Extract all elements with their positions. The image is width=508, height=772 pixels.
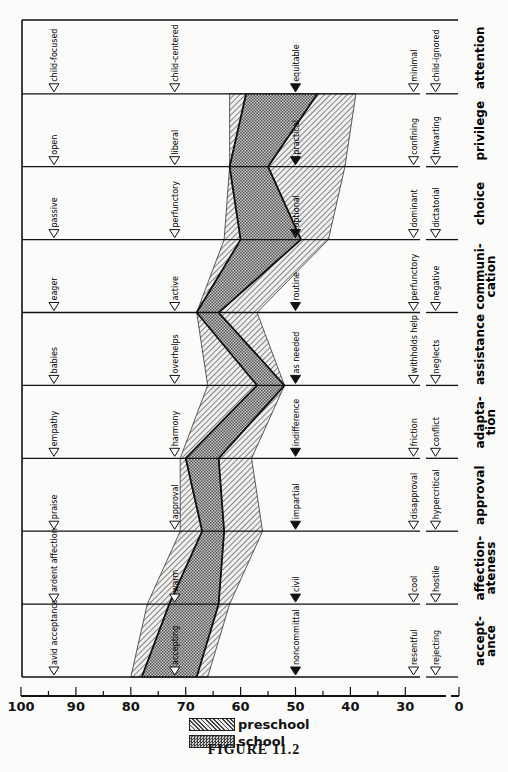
open-triangle-marker-icon — [431, 375, 441, 383]
open-triangle-marker-icon — [49, 667, 59, 675]
anchor-label: resentful — [410, 630, 419, 665]
open-triangle-marker-icon — [409, 303, 419, 311]
open-triangle-marker-icon — [49, 448, 59, 456]
anchor-label: withholds help — [410, 315, 419, 373]
open-triangle-marker-icon — [409, 375, 419, 383]
value-axis — [21, 687, 459, 696]
anchor-label: civil — [292, 576, 301, 592]
open-triangle-marker-icon — [49, 230, 59, 238]
anchor-label: practical — [292, 120, 301, 155]
open-triangle-marker-icon — [409, 84, 419, 92]
anchor-label: rejecting — [432, 630, 441, 665]
open-triangle-marker-icon — [431, 230, 441, 238]
anchor-label: cool — [410, 576, 419, 592]
anchor-label: praise — [50, 495, 59, 520]
open-triangle-marker-icon — [409, 521, 419, 529]
anchor-label: friction — [410, 418, 419, 446]
axis-tick-label: 60 — [232, 699, 250, 714]
filled-triangle-marker-icon — [291, 84, 301, 92]
open-triangle-marker-icon — [170, 230, 180, 238]
open-triangle-marker-icon — [170, 375, 180, 383]
open-triangle-marker-icon — [409, 157, 419, 165]
anchor-label: noncommittal — [292, 609, 301, 665]
anchor-label: disapproval — [410, 473, 419, 519]
anchor-label: indifference — [292, 399, 301, 447]
category-label: cation — [484, 256, 498, 298]
anchor-label: neglects — [432, 339, 441, 373]
open-triangle-marker-icon — [431, 84, 441, 92]
axis-tick-label: 0 — [454, 699, 463, 714]
category-labels: accept-anceaffection-atenessapprovaladap… — [473, 26, 498, 666]
filled-triangle-marker-icon — [291, 521, 301, 529]
anchor-label: optional — [292, 195, 301, 227]
open-triangle-marker-icon — [49, 521, 59, 529]
anchor-label: dictatorial — [432, 187, 441, 227]
open-triangle-marker-icon — [431, 667, 441, 675]
anchor-label: active — [171, 276, 180, 300]
open-triangle-marker-icon — [409, 667, 419, 675]
anchor-label: thwarting — [432, 116, 441, 154]
category-label: assistance — [473, 314, 487, 385]
anchor-label: minimal — [410, 50, 419, 82]
anchor-label: as needed — [292, 332, 301, 374]
open-triangle-marker-icon — [49, 375, 59, 383]
anchor-label: overhelps — [171, 334, 180, 373]
filled-triangle-marker-icon — [291, 667, 301, 675]
anchor-label: impartial — [292, 483, 301, 519]
anchor-label: passive — [50, 197, 59, 227]
anchor-label: warm — [171, 570, 180, 593]
anchor-label: harmony — [171, 410, 180, 446]
category-label: ance — [484, 625, 498, 657]
axis-tick-label: 80 — [122, 699, 140, 714]
axis-tick-label: 30 — [396, 699, 414, 714]
category-label: approval — [473, 465, 487, 524]
category-label: privilege — [473, 101, 487, 161]
open-triangle-marker-icon — [170, 303, 180, 311]
category-label: attention — [473, 26, 487, 89]
open-triangle-marker-icon — [49, 157, 59, 165]
anchor-label: child-centered — [171, 24, 180, 81]
axis-tick-label: 100 — [7, 699, 34, 714]
open-triangle-marker-icon — [170, 84, 180, 92]
category-label: choice — [473, 182, 487, 225]
category-label: tion — [484, 409, 498, 436]
anchor-label: perfunctory — [410, 254, 419, 301]
axis-tick-label: 40 — [341, 699, 359, 714]
open-triangle-marker-icon — [409, 594, 419, 602]
legend-item-preschool: preschool — [189, 716, 310, 733]
anchor-label: avid acceptance — [50, 599, 59, 665]
anchor-label: hypercritical — [432, 469, 441, 519]
anchor-label: accepting — [171, 626, 180, 665]
open-triangle-marker-icon — [409, 448, 419, 456]
open-triangle-marker-icon — [170, 157, 180, 165]
axis-tick-label: 90 — [67, 699, 85, 714]
open-triangle-marker-icon — [431, 448, 441, 456]
axis-tick-label: 70 — [177, 699, 195, 714]
anchor-label: open — [50, 135, 59, 155]
open-triangle-marker-icon — [49, 303, 59, 311]
anchor-label: eager — [50, 277, 59, 301]
filled-triangle-marker-icon — [291, 448, 301, 456]
anchor-label: confining — [410, 118, 419, 155]
anchor-label: dominant — [410, 189, 419, 227]
anchor-label: empathy — [50, 410, 59, 446]
legend-label: preschool — [238, 717, 310, 732]
anchor-label: babies — [50, 347, 59, 373]
anchor-label: liberal — [171, 130, 180, 155]
open-triangle-marker-icon — [431, 521, 441, 529]
open-triangle-marker-icon — [431, 157, 441, 165]
profile-chart: avid acceptanceacceptingnoncommittalrese… — [0, 0, 508, 772]
filled-triangle-marker-icon — [291, 594, 301, 602]
open-triangle-marker-icon — [431, 594, 441, 602]
anchor-label: negative — [432, 265, 441, 300]
filled-triangle-marker-icon — [291, 375, 301, 383]
filled-triangle-marker-icon — [291, 303, 301, 311]
anchor-label: child-ignored — [432, 30, 441, 82]
anchor-label: routine — [292, 272, 301, 301]
axis-tick-label: 50 — [286, 699, 304, 714]
category-label: ateness — [484, 542, 498, 595]
anchor-label: child-focused — [50, 29, 59, 82]
open-triangle-marker-icon — [409, 230, 419, 238]
anchor-label: conflict — [432, 417, 441, 446]
open-triangle-marker-icon — [431, 303, 441, 311]
